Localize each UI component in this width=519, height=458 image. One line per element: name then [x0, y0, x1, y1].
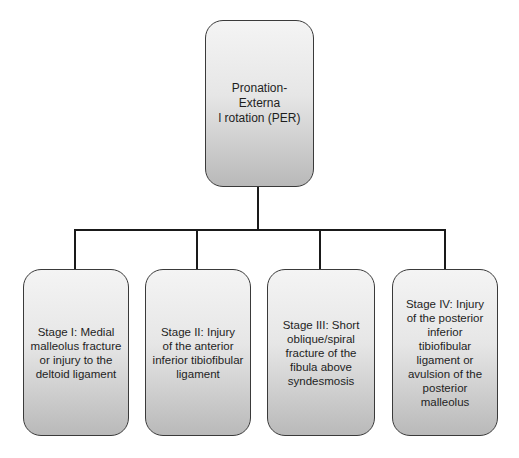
connector-horizontal-bus — [74, 229, 446, 231]
stage-3-label: Stage III: Short oblique/spiral fracture… — [283, 318, 360, 388]
root-node-per: Pronation-Externa l rotation (PER) — [205, 20, 314, 187]
root-node-label: Pronation-Externa l rotation (PER) — [212, 81, 307, 126]
connector-stage-1 — [74, 229, 76, 269]
stage-2-label: Stage II: Injury of the anterior inferio… — [153, 325, 244, 381]
connector-root-trunk — [257, 187, 259, 230]
stage-4-label: Stage IV: Injury of the posterior inferi… — [406, 297, 484, 409]
stage-1-label: Stage I: Medial malleolus fracture or in… — [31, 325, 122, 381]
stage-node-2: Stage II: Injury of the anterior inferio… — [145, 269, 251, 436]
connector-stage-2 — [196, 229, 198, 269]
connector-stage-4 — [444, 229, 446, 269]
stage-node-3: Stage III: Short oblique/spiral fracture… — [267, 269, 375, 436]
stage-node-1: Stage I: Medial malleolus fracture or in… — [23, 269, 129, 436]
connector-stage-3 — [319, 229, 321, 269]
stage-node-4: Stage IV: Injury of the posterior inferi… — [392, 269, 498, 436]
